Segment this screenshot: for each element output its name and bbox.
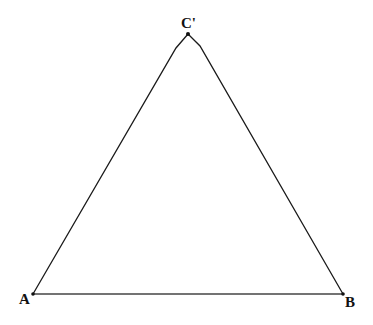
side-bc bbox=[188, 34, 343, 294]
vertex-a-point bbox=[31, 292, 35, 296]
side-ac bbox=[33, 34, 188, 294]
vertex-c-label: C' bbox=[181, 15, 196, 31]
triangle-diagram: A B C' bbox=[0, 0, 373, 325]
vertex-c-point bbox=[186, 32, 190, 36]
vertex-b-label: B bbox=[345, 294, 355, 310]
vertex-a-label: A bbox=[19, 291, 30, 307]
